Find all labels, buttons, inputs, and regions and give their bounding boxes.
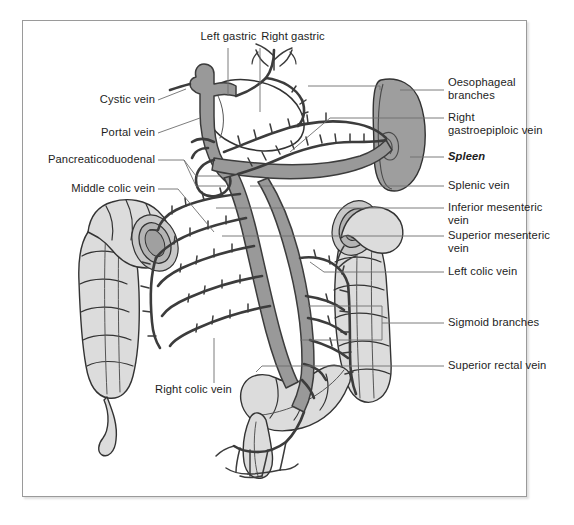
label-sigmoid-branches: Sigmoid branches xyxy=(448,316,572,329)
label-oesophageal-branches: Oesophageal branches xyxy=(448,76,572,103)
label-superior-mesenteric-vein: Superior mesenteric vein xyxy=(448,229,574,256)
label-splenic-vein: Splenic vein xyxy=(448,179,572,192)
middle-colic-vein xyxy=(158,194,240,230)
cystic-vein xyxy=(170,84,190,90)
label-right-gastric: Right gastric xyxy=(237,30,349,43)
label-inferior-mesenteric-vein: Inferior mesenteric vein xyxy=(448,201,574,228)
label-cystic-vein: Cystic vein xyxy=(20,93,155,106)
label-middle-colic-vein: Middle colic vein xyxy=(20,182,155,195)
label-right-gastroepiploic-vein: Right gastroepiploic vein xyxy=(448,111,572,138)
portal-venous-system-figure: .vein { fill:#999999; stroke:#3c3c3c; st… xyxy=(0,0,574,525)
label-spleen: Spleen xyxy=(448,150,572,163)
leader-portal-vein xyxy=(158,118,200,133)
appendix xyxy=(99,397,117,456)
leader-oesophageal-branches-b xyxy=(308,86,380,90)
label-left-colic-vein: Left colic vein xyxy=(448,265,572,278)
label-right-colic-vein: Right colic vein xyxy=(155,383,275,396)
label-superior-rectal-vein: Superior rectal vein xyxy=(448,359,574,372)
label-pancreaticoduodenal: Pancreaticoduodenal xyxy=(10,153,155,166)
label-portal-vein: Portal vein xyxy=(20,126,155,139)
